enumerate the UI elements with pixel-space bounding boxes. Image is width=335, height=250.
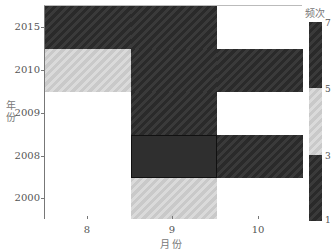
x-tick-label: 8 — [72, 224, 102, 235]
x-tick-mark — [172, 216, 173, 219]
cell-2015-9 — [131, 6, 217, 49]
cell-2000-8 — [45, 178, 131, 219]
cell-2008-9 — [131, 135, 217, 178]
cell-2015-10 — [217, 6, 303, 49]
y-tick-mark — [41, 198, 44, 199]
cell-2000-10 — [217, 178, 303, 219]
y-tick-label: 2000 — [0, 193, 40, 203]
cell-2000-9 — [131, 178, 217, 219]
colorbar-tick: 7 — [325, 19, 331, 28]
y-tick-mark — [41, 156, 44, 157]
colorbar — [309, 22, 322, 221]
x-axis-label: 月份 — [160, 236, 184, 250]
cell-2010-8 — [45, 49, 131, 92]
y-tick-label: 2008 — [0, 151, 40, 161]
y-tick-mark — [41, 70, 44, 71]
cell-2009-8 — [45, 92, 131, 135]
colorbar-title: 频次 — [305, 5, 325, 20]
y-axis-label: 年份 — [2, 100, 17, 124]
y-tick-label: 2015 — [0, 22, 40, 32]
heatmap-plot-area — [44, 5, 302, 219]
cell-2009-10 — [217, 92, 303, 135]
colorbar-band-high — [309, 22, 322, 88]
x-tick-label: 9 — [157, 224, 187, 235]
colorbar-band-mid — [309, 88, 322, 155]
cell-2008-10 — [217, 135, 303, 178]
colorbar-band-low — [309, 155, 322, 221]
x-tick-mark — [87, 216, 88, 219]
y-tick-mark — [41, 113, 44, 114]
cell-2015-8 — [45, 6, 131, 49]
colorbar-tick: 3 — [325, 152, 331, 161]
cell-2008-8 — [45, 135, 131, 178]
x-tick-mark — [258, 216, 259, 219]
y-tick-mark — [41, 27, 44, 28]
colorbar-tick: 1 — [325, 216, 331, 225]
y-tick-label: 2010 — [0, 65, 40, 75]
colorbar-tick: 5 — [325, 85, 331, 94]
cell-2010-10 — [217, 49, 303, 92]
cell-2009-9 — [131, 92, 217, 135]
x-tick-label: 10 — [243, 224, 273, 235]
cell-2010-9 — [131, 49, 217, 92]
